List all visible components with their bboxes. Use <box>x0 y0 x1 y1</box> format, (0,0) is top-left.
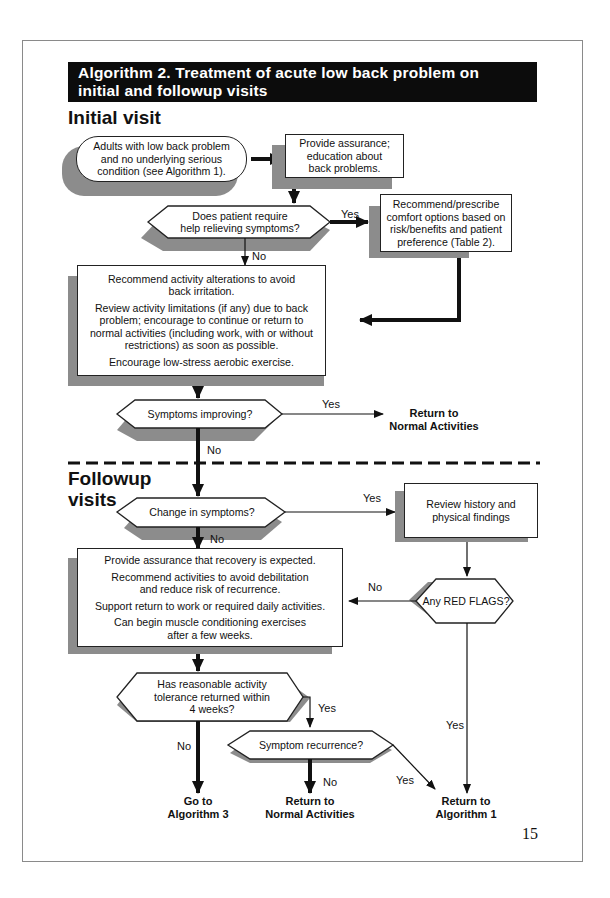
normal1-text-1: Return to <box>384 407 484 420</box>
edge-label-redflags-yes: Yes <box>446 719 464 731</box>
page-number: 15 <box>522 825 538 843</box>
help-text-2: help relieving symptoms? <box>180 222 300 235</box>
comfort-text-1: Recommend/prescribe <box>381 198 511 211</box>
start-node: Adults with low back problem and no unde… <box>76 136 247 182</box>
normal2-text-1: Return to <box>256 795 364 808</box>
terminal-algorithm-1: Return to Algorithm 1 <box>425 795 507 820</box>
assurance-text-3: back problems. <box>286 162 403 175</box>
review-text-2: physical findings <box>405 511 537 524</box>
review-text-1: Review history and <box>405 498 537 511</box>
edge-label-change-yes: Yes <box>363 492 381 504</box>
edge-label-redflags-no: No <box>368 581 382 593</box>
decision-help: Does patient require help relieving symp… <box>152 206 328 238</box>
followup-text-4: Can begin muscle conditioning exercises … <box>81 616 339 641</box>
decision-change: Change in symptoms? <box>127 498 277 527</box>
comfort-text-4: preference (Table 2). <box>381 236 511 249</box>
activity-box: Recommend activity alterations to avoid … <box>77 265 326 376</box>
comfort-box: Recommend/prescribe comfort options base… <box>380 194 512 252</box>
comfort-text-3: risk/benefits and patient <box>381 223 511 236</box>
terminal-normal-activities-1: Return to Normal Activities <box>384 407 484 432</box>
edge-label-change-no: No <box>210 533 224 545</box>
edge-label-help-no: No <box>252 250 266 262</box>
help-text-1: Does patient require <box>192 210 287 223</box>
activity-text-3: Encourage low-stress aerobic exercise. <box>82 356 321 369</box>
review-box: Review history and physical findings <box>404 483 538 538</box>
edge-label-recurrence-yes: Yes <box>396 774 414 786</box>
edge-label-improving-yes: Yes <box>322 398 340 410</box>
activity-text-1: Recommend activity alterations to avoid … <box>82 273 321 298</box>
edge-label-tolerance-yes: Yes <box>318 702 336 714</box>
followup-text-2: Recommend activities to avoid debilitati… <box>81 571 339 596</box>
edge-label-tolerance-no: No <box>177 740 191 752</box>
followup-text-3: Support return to work or required daily… <box>81 600 339 613</box>
terminal-algorithm-3: Go to Algorithm 3 <box>158 795 238 820</box>
tolerance-text-1: Has reasonable activity <box>157 678 267 691</box>
edge-label-recurrence-no: No <box>323 776 337 788</box>
terminal-normal-activities-2: Return to Normal Activities <box>256 795 364 820</box>
assurance-text-1: Provide assurance; <box>286 137 403 150</box>
tolerance-text-2: tolerance returned within <box>154 691 270 704</box>
normal2-text-2: Normal Activities <box>256 808 364 821</box>
alg3-text-2: Algorithm 3 <box>158 808 238 821</box>
normal1-text-2: Normal Activities <box>384 420 484 433</box>
decision-red-flags: Any RED FLAGS? <box>418 579 514 623</box>
followup-box: Provide assurance that recovery is expec… <box>77 548 343 647</box>
decision-recurrence: Symptom recurrence? <box>240 731 382 759</box>
edge-label-improving-no: No <box>207 444 221 456</box>
alg1-text-2: Algorithm 1 <box>425 808 507 821</box>
assurance-box: Provide assurance; education about back … <box>285 134 404 178</box>
comfort-text-2: comfort options based on <box>381 211 511 224</box>
alg3-text-1: Go to <box>158 795 238 808</box>
followup-text-1: Provide assurance that recovery is expec… <box>81 554 339 567</box>
alg1-text-1: Return to <box>425 795 507 808</box>
start-text-1: Adults with low back problem <box>77 140 246 153</box>
start-text-2: and no underlying serious <box>77 153 246 166</box>
edge-label-help-yes: Yes <box>341 208 359 220</box>
tolerance-text-3: 4 weeks? <box>190 703 235 716</box>
activity-text-2: Review activity limitations (if any) due… <box>82 302 321 352</box>
decision-improving: Symptoms improving? <box>125 400 275 428</box>
assurance-text-2: education about <box>286 150 403 163</box>
start-text-3: condition (see Algorithm 1). <box>77 165 246 178</box>
decision-tolerance: Has reasonable activity tolerance return… <box>127 673 297 721</box>
